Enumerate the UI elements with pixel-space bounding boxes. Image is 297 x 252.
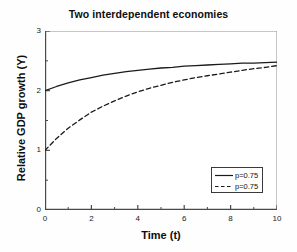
- legend-key-dashed-icon: [214, 182, 234, 191]
- y-tick-label: 2: [27, 86, 41, 95]
- y-tick-label: 3: [27, 26, 41, 35]
- x-tick-label: 10: [267, 214, 287, 223]
- legend-label: p=0.75: [235, 182, 258, 191]
- x-axis-label: Time (t): [45, 229, 277, 241]
- x-tick-label: 6: [174, 214, 194, 223]
- y-tick-label: 1: [27, 145, 41, 154]
- legend-label: p=0.75: [235, 171, 258, 180]
- x-tick-label: 8: [221, 214, 241, 223]
- y-tick-label: 0: [27, 205, 41, 214]
- legend-item: p=0.75: [214, 170, 262, 181]
- y-axis-label: Relative GDP growth (Y): [15, 28, 27, 208]
- x-tick-label: 2: [81, 214, 101, 223]
- x-tick-label: 4: [128, 214, 148, 223]
- chart-legend: p=0.75 p=0.75: [211, 167, 263, 193]
- chart-title: Two interdependent economies: [0, 8, 297, 20]
- chart-canvas: Two interdependent economies 0246810 012…: [0, 0, 297, 252]
- x-tick-label: 0: [35, 214, 55, 223]
- legend-item: p=0.75: [214, 181, 262, 192]
- legend-key-solid-icon: [214, 171, 234, 180]
